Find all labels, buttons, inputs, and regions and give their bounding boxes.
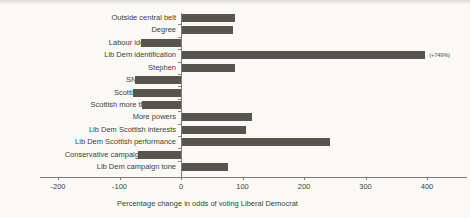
bar — [181, 26, 233, 34]
x-axis-tick — [120, 177, 121, 180]
x-axis-tick-label: 100 — [236, 182, 249, 191]
bar-chart-figure: Outside central beltDegreeLabour identif… — [0, 0, 470, 218]
x-axis-tick — [243, 177, 244, 180]
category-label: Lib Dem Scottish performance — [75, 138, 176, 146]
bar — [138, 151, 181, 159]
plot-area: Outside central beltDegreeLabour identif… — [0, 0, 470, 218]
category-label: More powers — [133, 113, 176, 121]
bar — [181, 138, 330, 146]
zero-baseline — [181, 13, 182, 177]
x-axis-tick — [304, 177, 305, 180]
bar — [135, 76, 181, 84]
x-axis-title: Percentage change in odds of voting Libe… — [117, 199, 298, 208]
category-label: Degree — [151, 26, 176, 34]
clipped-bar-annotation: (+749%) — [429, 52, 450, 59]
category-label: Lib Dem Scottish interests — [89, 126, 176, 134]
x-axis-tick-label: 400 — [421, 182, 434, 191]
x-axis-tick — [181, 177, 182, 180]
x-axis-line — [40, 177, 467, 178]
category-label: Stephen — [148, 64, 176, 72]
category-label: Lib Dem identification — [104, 51, 176, 59]
x-axis-tick — [58, 177, 59, 180]
x-axis-tick-label: -100 — [112, 182, 127, 191]
x-axis-tick-label: 0 — [179, 182, 183, 191]
bar — [181, 113, 252, 121]
bar — [142, 101, 181, 109]
bar — [181, 64, 235, 72]
bar — [181, 163, 228, 171]
x-axis-tick-label: 300 — [359, 182, 372, 191]
x-axis-tick — [427, 177, 428, 180]
bar — [181, 14, 235, 22]
category-label: Outside central belt — [111, 14, 176, 22]
bar — [133, 89, 181, 97]
bar — [141, 39, 181, 47]
x-axis-tick-label: 200 — [298, 182, 311, 191]
category-label: Lib Dem campaign tone — [97, 163, 176, 171]
x-axis-tick — [366, 177, 367, 180]
bar — [181, 51, 425, 59]
x-axis-tick-label: -200 — [50, 182, 65, 191]
bar — [181, 126, 246, 134]
